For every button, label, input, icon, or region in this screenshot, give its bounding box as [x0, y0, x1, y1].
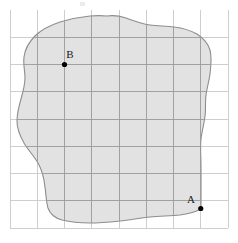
top-edge-mark — [80, 2, 85, 6]
figure-container: B A — [0, 0, 238, 243]
point-a-dot[interactable] — [198, 206, 203, 211]
point-a-label: A — [187, 193, 195, 205]
point-b-dot[interactable] — [62, 62, 67, 67]
grid-region-figure: B A — [0, 0, 238, 243]
point-b-label: B — [66, 48, 73, 60]
